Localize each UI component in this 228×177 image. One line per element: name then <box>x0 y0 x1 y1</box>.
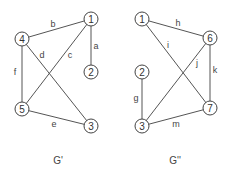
node-label: 2 <box>139 67 145 78</box>
edge-label-e: e <box>51 119 56 129</box>
edge-label-k: k <box>213 65 218 75</box>
node-7: 7 <box>203 101 217 115</box>
node-4: 4 <box>15 32 29 46</box>
edge-label-g: g <box>133 93 138 103</box>
node-label: 7 <box>207 103 213 114</box>
edge-label-b: b <box>50 19 55 29</box>
node-3: 3 <box>84 119 98 133</box>
node-1: 1 <box>84 12 98 26</box>
node-label: 3 <box>88 121 94 132</box>
edge-i <box>142 19 210 108</box>
edge-label-j: j <box>195 58 198 68</box>
edge-label-a: a <box>93 41 98 51</box>
node-label: 6 <box>207 33 213 44</box>
edge-label-f: f <box>14 67 17 77</box>
node-label: 1 <box>88 14 94 25</box>
edge-d <box>22 39 91 126</box>
node-label: 5 <box>19 104 25 115</box>
edge-label-i: i <box>167 40 169 50</box>
edge-c <box>22 19 91 109</box>
diagram-canvas: abcdefhijkgm 1234512367 G' G'' <box>0 0 228 177</box>
edge-b <box>22 19 91 39</box>
node-2: 2 <box>84 65 98 79</box>
node-5: 5 <box>15 102 29 116</box>
edge-label-c: c <box>68 50 73 60</box>
edge-label-m: m <box>172 119 180 129</box>
node-6: 6 <box>203 31 217 45</box>
node-3: 3 <box>135 119 149 133</box>
node-label: 4 <box>19 34 25 45</box>
edge-label-h: h <box>175 18 180 28</box>
edge-label-d: d <box>39 50 44 60</box>
node-label: 1 <box>139 14 145 25</box>
edges-layer <box>22 19 210 126</box>
node-label: 3 <box>139 121 145 132</box>
node-1: 1 <box>135 12 149 26</box>
edge-labels-layer: abcdefhijkgm <box>14 18 218 129</box>
node-2: 2 <box>135 65 149 79</box>
graph-title-g-double-prime: G'' <box>169 155 181 166</box>
graph-drawing: abcdefhijkgm 1234512367 <box>0 0 228 177</box>
edge-j <box>142 38 210 126</box>
graph-title-g-prime: G' <box>53 155 63 166</box>
node-label: 2 <box>88 67 94 78</box>
